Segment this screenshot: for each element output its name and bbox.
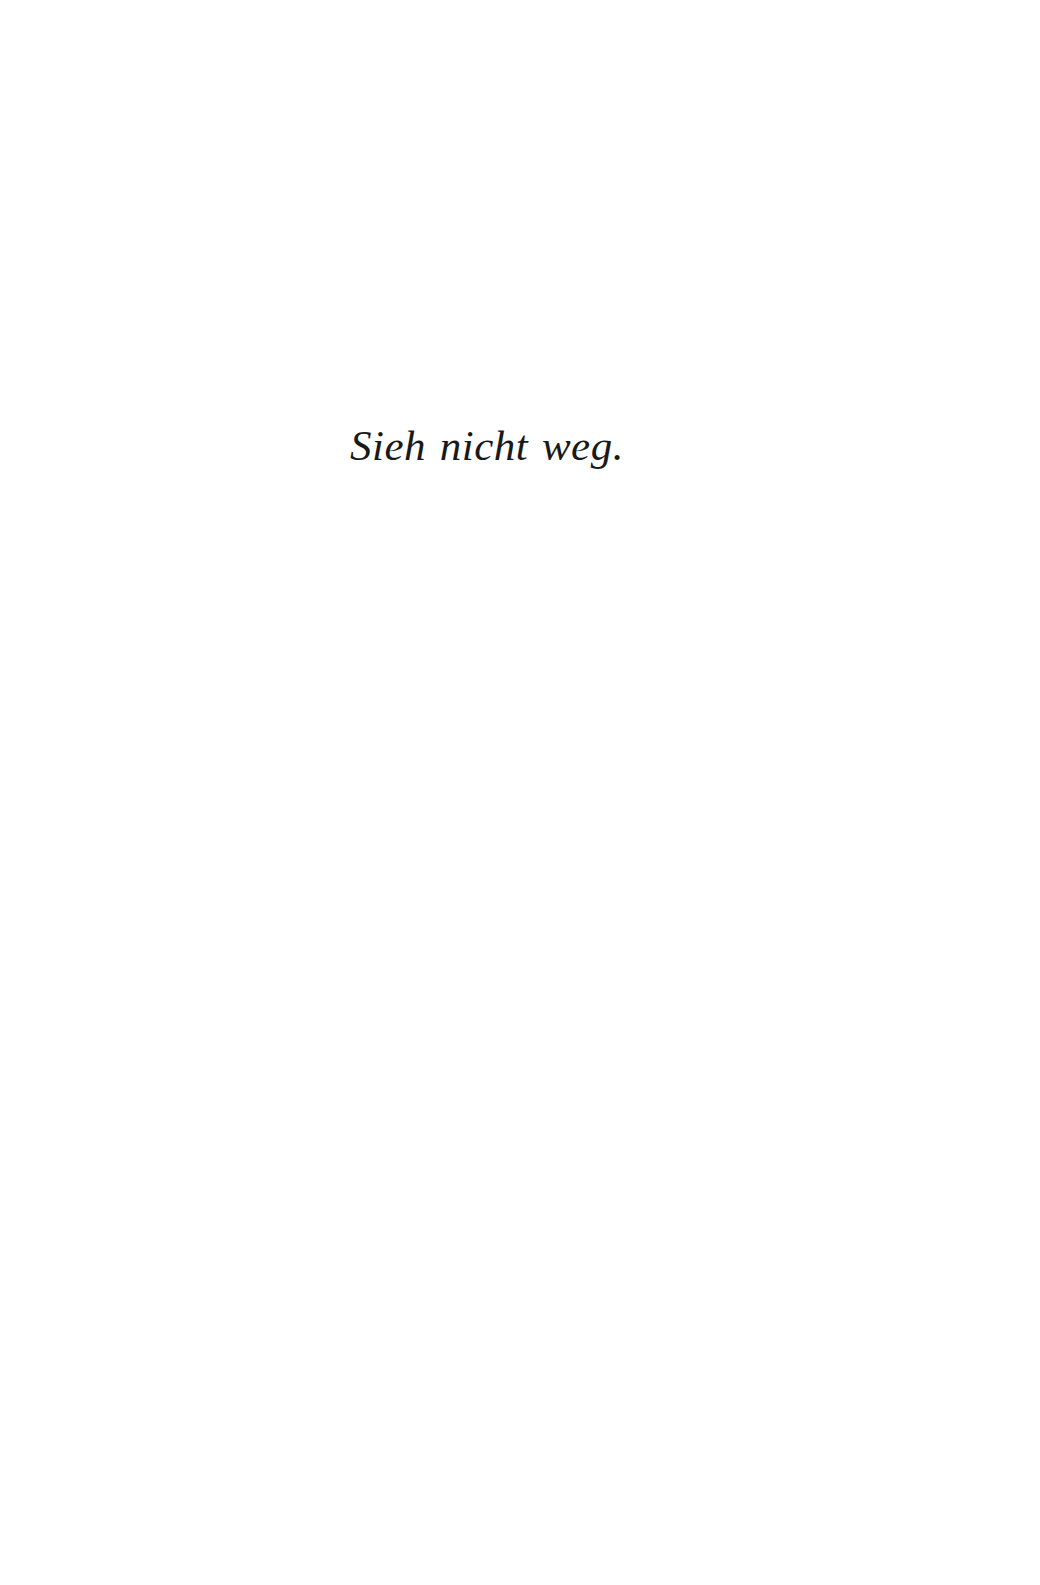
book-page: Sieh nicht weg.: [0, 0, 1040, 1585]
epigraph-block: Sieh nicht weg.: [350, 420, 770, 472]
epigraph-text: Sieh nicht weg.: [350, 420, 770, 472]
